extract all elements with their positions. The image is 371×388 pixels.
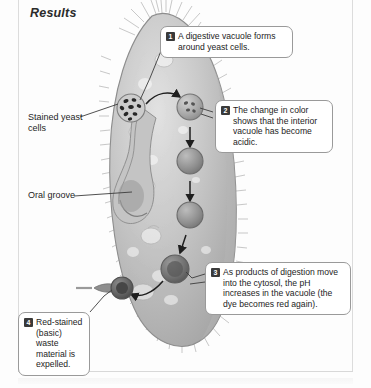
callout-2-badge: 2	[221, 106, 230, 115]
results-figure: Results	[0, 0, 371, 388]
vacuole-digesting	[177, 202, 203, 228]
callout-3: 3 As products of digestion move into the…	[205, 262, 351, 315]
callout-2-text: The change in color shows that the inter…	[233, 105, 326, 147]
vacuole-acidic	[177, 148, 203, 174]
callout-3-text: As products of digestion move into the c…	[223, 267, 344, 309]
callout-1-text: A digestive vacuole forms around yeast c…	[178, 31, 286, 52]
callout-1: 1 A digestive vacuole forms around yeast…	[160, 26, 293, 58]
callout-4: 4 Red-stained (basic) waste material is …	[18, 312, 90, 376]
label-oral-groove: Oral groove	[28, 190, 88, 201]
label-stained-yeast-cells: Stained yeast cells	[28, 112, 94, 134]
callout-2: 2 The change in color shows that the int…	[215, 100, 333, 153]
callout-3-badge: 3	[211, 268, 220, 277]
leader-callout-4	[90, 290, 112, 312]
vacuole-newly-formed	[177, 94, 203, 120]
callout-4-badge: 4	[24, 318, 33, 327]
callout-4-text: Red-stained (basic) waste material is ex…	[36, 317, 83, 370]
callout-1-badge: 1	[166, 32, 175, 41]
